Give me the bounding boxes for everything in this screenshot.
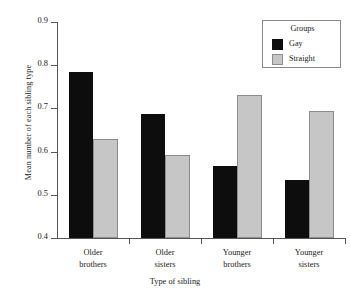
y-axis-tick-label: 0.6 xyxy=(8,147,48,155)
x-axis-label-line: Younger xyxy=(266,247,350,259)
x-axis-label-younger-sisters: Youngersisters xyxy=(266,247,350,270)
bar-straight-older-brothers xyxy=(93,139,118,238)
legend-label-straight: Straight xyxy=(289,54,315,63)
bar-straight-younger-sisters xyxy=(309,111,334,238)
legend-title: Groups xyxy=(263,24,342,33)
bar-gay-older-brothers xyxy=(69,72,94,238)
legend-swatch-straight-icon xyxy=(272,54,283,65)
y-axis-tick-label: 0.8 xyxy=(8,60,48,68)
legend-label-gay: Gay xyxy=(289,39,303,48)
bar-gay-younger-sisters xyxy=(285,180,310,238)
x-axis-tick xyxy=(273,238,274,244)
legend-swatch-gay-icon xyxy=(272,39,283,50)
y-axis-tick-label: 0.7 xyxy=(8,103,48,111)
y-axis-tick-label: 0.9 xyxy=(8,17,48,25)
bar-gay-younger-brothers xyxy=(213,166,238,238)
x-axis-tick xyxy=(129,238,130,244)
y-axis-tick-label: 0.5 xyxy=(8,190,48,198)
y-axis-tick xyxy=(51,238,57,239)
x-axis-title: Type of sibling xyxy=(0,277,350,286)
legend: Groups Gay Straight xyxy=(262,20,341,68)
bar-gay-older-sisters xyxy=(141,114,166,238)
x-axis-tick xyxy=(201,238,202,244)
bar-chart: Mean number of each sibling type 0.40.50… xyxy=(0,0,350,300)
x-axis-tick xyxy=(345,238,346,244)
bar-straight-older-sisters xyxy=(165,155,190,238)
y-axis-tick-label: 0.4 xyxy=(8,233,48,241)
bar-straight-younger-brothers xyxy=(237,95,262,238)
x-axis-label-line: sisters xyxy=(266,259,350,271)
